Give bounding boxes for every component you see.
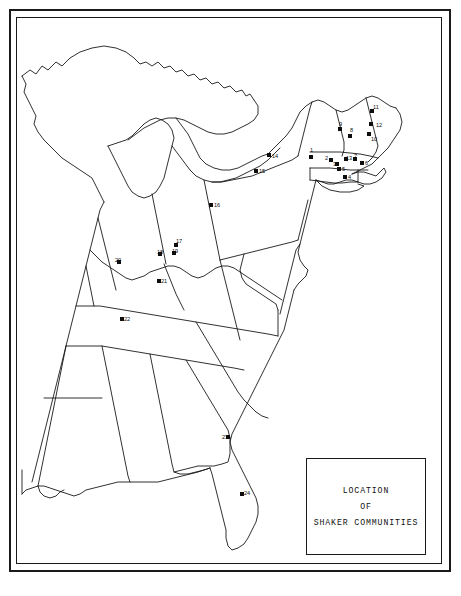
community-marker-label-14: 14: [272, 154, 278, 160]
community-marker-label-20: 20: [115, 258, 121, 264]
shaker-communities-map-figure: LOCATION OF SHAKER COMMUNITIES 123456789…: [0, 0, 461, 596]
community-marker-label-8: 8: [350, 128, 353, 134]
community-marker-label-1: 1: [310, 148, 313, 154]
community-marker-label-17: 17: [176, 239, 182, 245]
community-marker-4: [343, 175, 347, 179]
community-marker-label-12: 12: [376, 123, 382, 129]
community-marker-label-15: 15: [259, 169, 265, 175]
community-marker-6: [360, 161, 364, 165]
community-marker-label-9: 9: [339, 122, 342, 128]
community-marker-label-19: 19: [172, 249, 178, 255]
community-marker-label-2: 2: [325, 156, 328, 162]
community-marker-8: [348, 134, 352, 138]
community-marker-1: [309, 155, 313, 159]
community-marker-label-3: 3: [333, 162, 336, 168]
map-legend-box: LOCATION OF SHAKER COMMUNITIES: [306, 458, 426, 555]
community-marker-label-6: 6: [365, 161, 368, 167]
community-marker-label-4: 4: [348, 175, 351, 181]
legend-line-of: OF: [360, 502, 372, 511]
community-marker-label-21: 21: [161, 279, 167, 285]
community-marker-label-23: 23: [222, 435, 228, 441]
community-marker-label-18: 18: [157, 250, 163, 256]
community-marker-label-13: 13: [346, 156, 352, 162]
community-marker-label-16: 16: [214, 203, 220, 209]
community-marker-15: [254, 169, 258, 173]
community-marker-label-7: 7: [354, 154, 357, 160]
community-marker-12: [369, 122, 373, 126]
community-marker-label-10: 10: [371, 137, 377, 143]
community-marker-label-22: 22: [124, 317, 130, 323]
legend-line-location: LOCATION: [343, 486, 390, 495]
community-marker-label-5: 5: [342, 167, 345, 173]
community-marker-9: [338, 127, 342, 131]
legend-line-shaker-communities: SHAKER COMMUNITIES: [314, 518, 419, 527]
community-marker-14: [267, 153, 271, 157]
community-marker-label-24: 24: [244, 491, 250, 497]
community-marker-label-11: 11: [373, 105, 379, 111]
community-marker-5: [337, 167, 341, 171]
community-marker-16: [209, 203, 213, 207]
